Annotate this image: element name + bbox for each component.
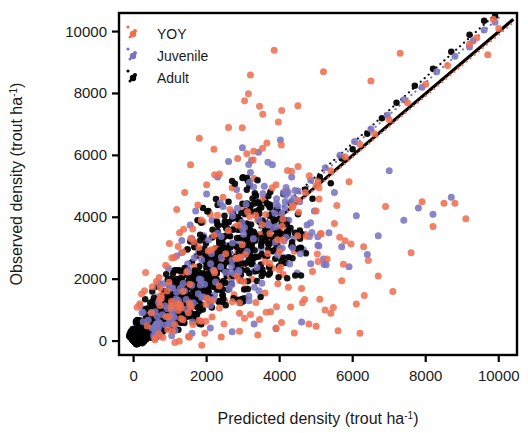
data-point xyxy=(440,200,447,207)
data-point xyxy=(285,227,292,234)
data-point xyxy=(282,198,289,205)
data-point xyxy=(349,146,356,153)
data-point xyxy=(382,203,389,210)
data-point xyxy=(256,103,263,110)
data-point xyxy=(142,269,149,276)
data-point xyxy=(430,211,437,218)
data-point xyxy=(281,205,288,212)
data-point xyxy=(198,342,205,349)
data-point xyxy=(331,220,338,227)
data-point xyxy=(203,181,210,188)
data-point xyxy=(481,17,488,24)
data-point xyxy=(412,82,419,89)
data-point xyxy=(222,302,229,309)
legend-marker-juvenile xyxy=(129,58,132,61)
data-point xyxy=(207,260,214,267)
legend-marker-adult xyxy=(133,73,137,77)
data-point xyxy=(258,280,265,287)
data-point xyxy=(169,327,176,334)
data-point xyxy=(273,200,280,207)
data-point xyxy=(316,195,323,202)
data-point xyxy=(276,248,283,255)
data-point xyxy=(274,236,281,243)
data-point xyxy=(415,204,422,211)
data-point xyxy=(237,253,244,260)
data-point xyxy=(197,281,204,288)
data-point xyxy=(295,163,302,170)
data-point xyxy=(274,280,281,287)
data-point xyxy=(305,321,312,328)
data-point xyxy=(356,330,363,337)
data-point xyxy=(225,227,232,234)
data-point xyxy=(155,330,162,337)
data-point xyxy=(284,167,291,174)
data-point xyxy=(138,290,145,297)
data-point xyxy=(367,78,374,85)
data-point xyxy=(175,243,182,250)
data-point xyxy=(163,313,170,320)
data-point xyxy=(313,182,320,189)
data-point xyxy=(236,328,243,335)
data-point xyxy=(320,68,327,75)
data-point xyxy=(315,258,322,265)
data-point xyxy=(285,284,292,291)
data-point xyxy=(430,223,437,230)
data-point xyxy=(187,161,194,168)
y-tick-label: 2000 xyxy=(74,270,107,287)
data-point xyxy=(217,199,224,206)
data-point xyxy=(422,81,429,88)
data-point xyxy=(216,298,223,305)
data-point xyxy=(166,240,173,247)
data-point xyxy=(177,301,184,308)
data-point xyxy=(250,183,257,190)
data-point xyxy=(258,242,265,249)
data-point xyxy=(241,315,248,322)
data-point xyxy=(228,263,235,270)
data-point xyxy=(254,177,261,184)
data-point xyxy=(138,309,145,316)
data-point xyxy=(365,257,372,264)
x-tick-label: 4000 xyxy=(263,367,296,384)
data-point xyxy=(276,266,283,273)
data-point xyxy=(226,219,233,226)
data-point xyxy=(168,304,175,311)
legend-marker-yoy xyxy=(133,29,137,33)
data-point xyxy=(278,258,285,265)
data-point xyxy=(164,288,171,295)
data-point xyxy=(466,40,473,47)
data-point xyxy=(221,320,228,327)
data-point xyxy=(490,16,497,23)
scatter-plot-figure: 0200040006000800010000 02000400060008000… xyxy=(0,0,528,433)
data-point xyxy=(133,320,140,327)
data-point xyxy=(259,145,266,152)
data-point xyxy=(264,159,271,166)
data-point xyxy=(176,338,183,345)
data-point xyxy=(197,231,204,238)
data-point xyxy=(294,232,301,239)
data-point xyxy=(202,318,209,325)
data-point xyxy=(360,243,367,250)
data-point xyxy=(219,292,226,299)
data-point xyxy=(266,230,273,237)
data-point xyxy=(375,232,382,239)
data-point xyxy=(253,264,260,271)
data-point xyxy=(194,201,201,208)
data-point xyxy=(331,189,338,196)
data-point xyxy=(444,62,451,69)
data-point xyxy=(271,47,278,54)
data-point xyxy=(243,201,250,208)
data-point xyxy=(292,272,299,279)
data-point xyxy=(228,281,235,288)
data-point xyxy=(222,269,229,276)
legend-marker-juvenile xyxy=(133,51,137,55)
data-point xyxy=(314,250,321,257)
data-point xyxy=(241,286,248,293)
data-point xyxy=(259,190,266,197)
legend-label-juvenile: Juvenile xyxy=(157,48,209,64)
data-point xyxy=(361,292,368,299)
data-point xyxy=(393,100,400,107)
data-point xyxy=(404,99,411,106)
legend-marker-yoy xyxy=(129,36,132,39)
data-point xyxy=(226,206,233,213)
data-point xyxy=(210,232,217,239)
